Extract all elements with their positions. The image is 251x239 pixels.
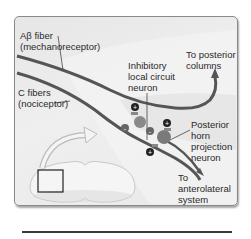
inhibitory-neuron-body	[134, 116, 146, 128]
posterior-columns-label-1: To posterior	[186, 49, 236, 60]
inhibitory-label-3: neuron	[128, 82, 158, 93]
divider-rule	[22, 231, 232, 233]
svg-text:+: +	[148, 149, 152, 156]
inhibitory-label-2: local circuit	[128, 71, 175, 82]
synapse-inhibitory-1: -	[121, 124, 129, 132]
synapse-excitatory-1: +	[131, 103, 139, 111]
c-role-label: (nociceptor)	[18, 98, 68, 109]
projection-neuron-body	[157, 130, 171, 144]
projection-label-3: projection	[191, 141, 232, 152]
svg-text:+: +	[165, 120, 169, 127]
anterolateral-label-2: anterolateral	[178, 183, 231, 194]
projection-label-1: Posterior	[191, 119, 229, 130]
projection-label-4: neuron	[191, 152, 221, 163]
abeta-fiber-label: Aβ fiber	[20, 30, 53, 41]
anterolateral-label-3: system	[178, 194, 208, 205]
c-fibers-label: C fibers	[18, 87, 51, 98]
synapse-excitatory-3: +	[146, 148, 154, 156]
inhibitory-label-1: Inhibitory	[128, 60, 167, 71]
anterolateral-label-1: To	[178, 172, 188, 183]
synapse-excitatory-2: +	[163, 119, 171, 127]
abeta-role-label: (mechanoreceptor)	[20, 41, 100, 52]
projection-label-2: horn	[191, 130, 210, 141]
posterior-columns-label-2: columns	[186, 60, 221, 71]
synapse-inhibitory-2: -	[146, 127, 154, 135]
svg-text:+: +	[133, 104, 137, 111]
